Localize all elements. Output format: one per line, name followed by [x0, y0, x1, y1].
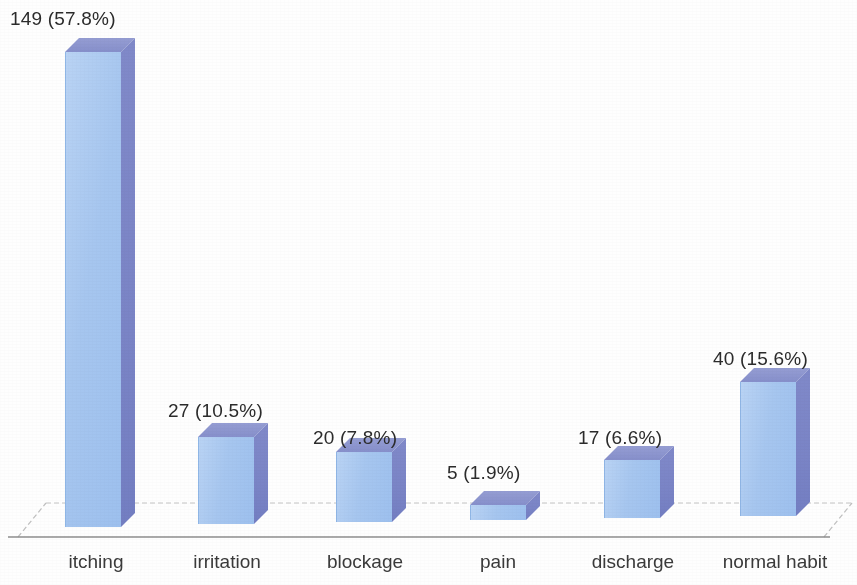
value-label-blockage: 20 (7.8%): [313, 427, 397, 449]
value-label-irritation: 27 (10.5%): [168, 400, 263, 422]
value-label-pain: 5 (1.9%): [447, 462, 520, 484]
category-label-irritation: irritation: [166, 551, 288, 573]
bar-front-face: [604, 460, 660, 518]
bar-discharge: [604, 446, 660, 518]
bar-itching: [65, 38, 121, 527]
floor-left-edge: [18, 503, 46, 537]
floor-right-edge: [824, 503, 852, 537]
bar-normal-habit: [740, 368, 796, 516]
bar-blockage: [336, 438, 392, 522]
category-label-pain: pain: [437, 551, 559, 573]
category-label-blockage: blockage: [303, 551, 427, 573]
value-label-discharge: 17 (6.6%): [578, 427, 662, 449]
category-label-itching: itching: [36, 551, 156, 573]
category-label-normal-habit: normal habit: [700, 551, 850, 573]
bar-chart: 149 (57.8%)27 (10.5%)20 (7.8%)5 (1.9%)17…: [0, 0, 857, 585]
bar-front-face: [198, 437, 254, 524]
bar-irritation: [198, 423, 254, 524]
bar-side-face: [254, 423, 268, 524]
category-label-discharge: discharge: [571, 551, 695, 573]
bar-front-face: [740, 382, 796, 516]
bar-front-face: [470, 505, 526, 520]
bar-front-face: [336, 452, 392, 522]
bar-side-face: [392, 438, 406, 522]
bar-front-face: [65, 52, 121, 527]
bar-side-face: [796, 368, 810, 516]
value-label-itching: 149 (57.8%): [10, 8, 116, 30]
bar-pain: [470, 491, 526, 520]
value-label-normal-habit: 40 (15.6%): [713, 348, 808, 370]
bar-side-face: [121, 38, 135, 527]
